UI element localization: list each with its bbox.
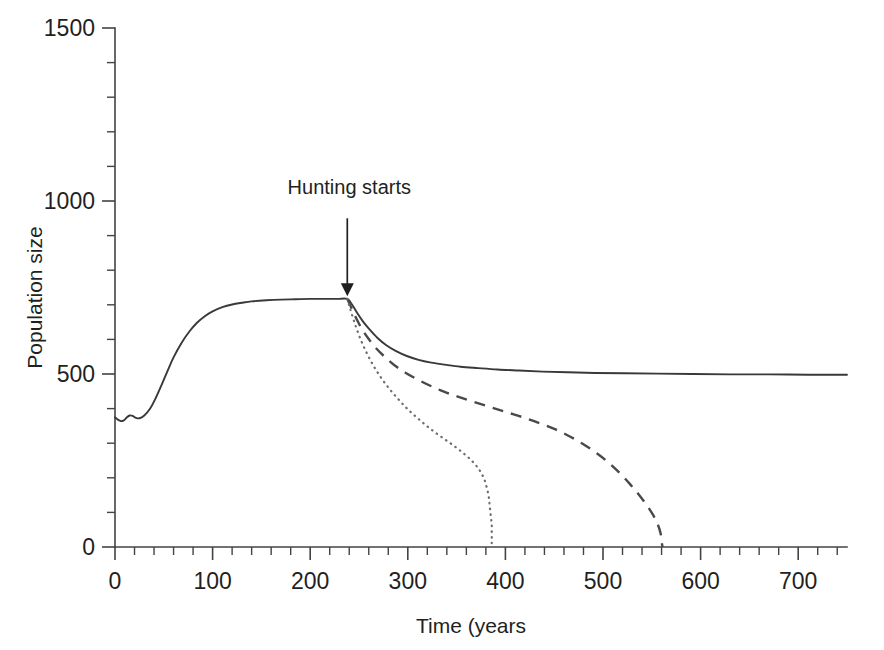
data-series-layer <box>115 298 847 547</box>
y-tick-label: 1500 <box>44 15 95 41</box>
x-tick-label: 300 <box>389 568 427 594</box>
x-tick-label: 200 <box>291 568 329 594</box>
x-tick-label: 700 <box>779 568 817 594</box>
plot-axes <box>102 28 847 560</box>
y-tick-label: 0 <box>82 534 95 560</box>
x-tick-label: 100 <box>193 568 231 594</box>
y-axis-major-ticks <box>102 28 115 547</box>
y-axis-title: Population size <box>23 226 46 368</box>
population-dynamics-chart: 050010001500 0100200300400500600700 Popu… <box>0 0 884 650</box>
x-tick-label: 400 <box>486 568 524 594</box>
x-tick-label: 0 <box>109 568 122 594</box>
x-tick-label: 600 <box>681 568 719 594</box>
x-tick-label: 500 <box>584 568 622 594</box>
annotation-label-hunting-starts: Hunting starts <box>288 176 411 198</box>
y-axis-minor-ticks <box>107 63 115 513</box>
figure-root: 050010001500 0100200300400500600700 Popu… <box>0 0 884 650</box>
series-heavy-overharvest <box>347 299 492 547</box>
x-axis-title: Time (years <box>416 614 526 637</box>
series-no-hunting-sustainable <box>115 298 847 421</box>
x-axis-minor-ticks <box>135 547 838 555</box>
y-tick-label: 1000 <box>44 188 95 214</box>
annotation-arrow-head-hunting-starts <box>341 283 354 296</box>
y-tick-label: 500 <box>57 361 95 387</box>
annotation-layer: Hunting starts <box>288 176 411 296</box>
y-axis-tick-labels: 050010001500 <box>44 15 95 560</box>
x-axis-major-ticks <box>115 547 798 560</box>
x-axis-tick-labels: 0100200300400500600700 <box>109 568 818 594</box>
series-moderate-overharvest <box>347 299 662 547</box>
